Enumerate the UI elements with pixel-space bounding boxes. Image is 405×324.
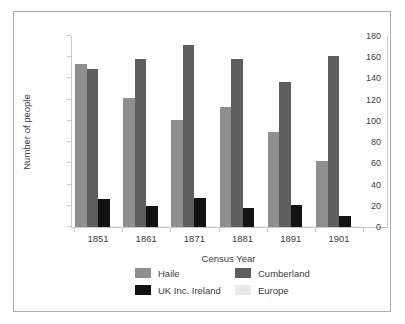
bar-group-1881 [220, 59, 266, 227]
chart-window: Number of people 02040608010012014016018… [0, 0, 405, 324]
y-tick-mark [67, 35, 71, 36]
bar-uk-inc-ireland-1881 [243, 208, 255, 227]
legend-label: Haile [158, 268, 180, 279]
bar-cumberland-1871 [183, 45, 195, 228]
bar-uk-inc-ireland-1901 [339, 216, 351, 227]
legend-item-europe: Europe [235, 284, 310, 296]
legend-item-uk-inc-ireland: UK Inc. Ireland [135, 284, 235, 296]
legend-label: UK Inc. Ireland [158, 285, 221, 296]
bar-europe-1861 [158, 226, 170, 227]
legend-label: Cumberland [258, 268, 310, 279]
bar-uk-inc-ireland-1861 [146, 206, 158, 227]
x-tick-mark [122, 228, 123, 232]
bar-cumberland-1861 [135, 59, 147, 227]
bar-europe-1881 [254, 226, 266, 227]
bar-haile-1901 [316, 161, 328, 227]
y-tick-mark [67, 205, 71, 206]
bar-haile-1861 [123, 98, 135, 227]
bar-europe-1851 [110, 226, 122, 227]
x-tick-label: 1891 [269, 233, 313, 244]
bar-group-1861 [123, 59, 169, 227]
bar-cumberland-1901 [328, 56, 340, 227]
legend-swatch-cumberland [235, 268, 251, 278]
x-tick-mark [267, 228, 268, 232]
bar-group-1871 [171, 45, 217, 228]
x-tick-label: 1861 [124, 233, 168, 244]
x-tick-mark [219, 228, 220, 232]
y-tick-mark [67, 99, 71, 100]
bar-uk-inc-ireland-1871 [194, 198, 206, 227]
y-tick-label: 180 [351, 31, 381, 41]
chart-panel: Number of people 02040608010012014016018… [13, 11, 391, 312]
y-tick-mark [67, 141, 71, 142]
y-axis-title: Number of people [21, 82, 33, 182]
x-tick-mark [74, 228, 75, 232]
plot-area: 0204060801001201401601801851186118711881… [71, 36, 388, 228]
y-tick-mark [67, 56, 71, 57]
y-tick-mark [67, 120, 71, 121]
legend-swatch-uk-inc-ireland [135, 285, 151, 295]
x-tick-label: 1851 [76, 233, 120, 244]
y-tick-mark [67, 226, 71, 227]
x-axis-title: Census Year [71, 253, 386, 264]
legend-item-haile: Haile [135, 267, 235, 279]
y-tick-mark [67, 184, 71, 185]
bar-cumberland-1851 [87, 69, 99, 227]
legend-item-cumberland: Cumberland [235, 267, 310, 279]
bar-haile-1851 [75, 64, 87, 227]
y-tick-mark [67, 77, 71, 78]
bar-cumberland-1881 [231, 59, 243, 227]
bar-europe-1871 [206, 226, 218, 227]
legend-swatch-europe [235, 285, 251, 295]
x-tick-mark [363, 228, 364, 232]
bar-haile-1871 [171, 120, 183, 227]
bar-haile-1881 [220, 107, 232, 227]
x-tick-label: 1901 [317, 233, 361, 244]
bar-europe-1901 [351, 226, 363, 227]
x-tick-label: 1871 [172, 233, 216, 244]
bar-europe-1891 [302, 226, 314, 227]
bar-cumberland-1891 [279, 82, 291, 227]
legend-swatch-haile [135, 268, 151, 278]
bar-group-1901 [316, 56, 362, 227]
bar-haile-1891 [268, 132, 280, 228]
bar-group-1891 [268, 82, 314, 227]
bar-group-1851 [75, 64, 121, 227]
legend-label: Europe [258, 285, 289, 296]
bar-uk-inc-ireland-1851 [98, 199, 110, 227]
bar-uk-inc-ireland-1891 [291, 205, 303, 227]
x-tick-label: 1881 [221, 233, 265, 244]
y-tick-mark [67, 162, 71, 163]
x-tick-mark [315, 228, 316, 232]
x-tick-mark [170, 228, 171, 232]
legend: HaileCumberlandUK Inc. IrelandEurope [135, 267, 310, 296]
